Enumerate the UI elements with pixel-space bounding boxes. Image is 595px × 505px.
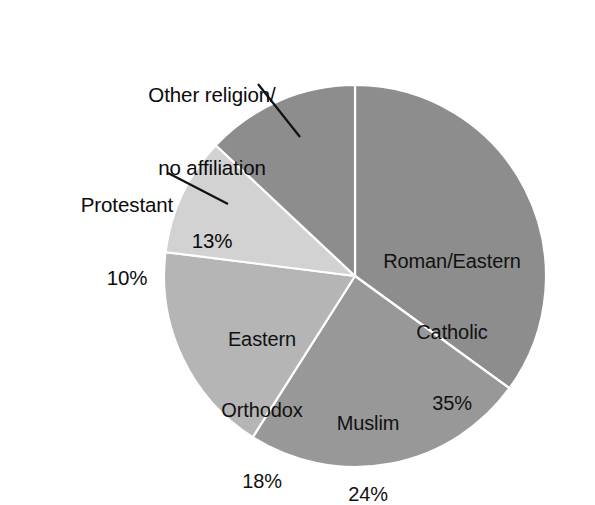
slice-label-protestant-line1: Protestant [32, 193, 222, 217]
slice-label-orthodox-line2: Orthodox [186, 399, 338, 423]
slice-label-orthodox-line1: Eastern [186, 328, 338, 352]
slice-label-orthodox: Eastern Orthodox 18% [186, 281, 338, 505]
slice-label-catholic-line2: Catholic [352, 321, 552, 345]
slice-label-other-line1: Other religion/ [96, 83, 328, 107]
slice-value-orthodox: 18% [186, 470, 338, 494]
slice-label-catholic-line1: Roman/Eastern [352, 250, 552, 274]
